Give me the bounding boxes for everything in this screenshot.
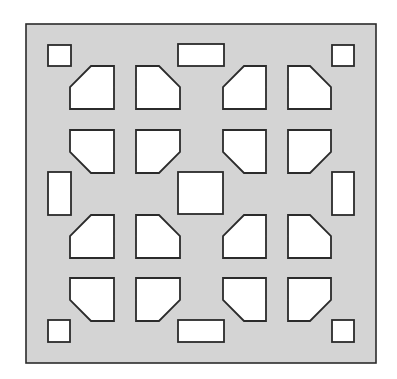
rect-hole-right-middle — [332, 172, 354, 215]
rect-hole-bottom-center — [178, 320, 224, 342]
small-square-hole-top-left — [48, 45, 71, 66]
perforated-panel-diagram — [0, 0, 397, 379]
rect-hole-top-center — [178, 44, 224, 66]
small-square-hole-top-right — [332, 45, 354, 66]
small-square-hole-bottom-right — [332, 320, 354, 342]
rect-hole-center — [178, 172, 223, 214]
small-square-hole-bottom-left — [48, 320, 70, 342]
rect-hole-left-middle — [48, 172, 71, 215]
